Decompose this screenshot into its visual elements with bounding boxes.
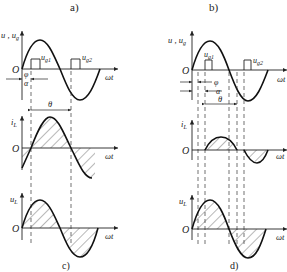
- panel-c-current-plot: θ iL O ωt: [11, 99, 118, 178]
- phi-label: φ: [24, 70, 29, 79]
- waveform-diagram: a) b) u , ug O ωt ug1 ug2 φ α θ: [0, 0, 287, 272]
- current-negative-area: [71, 148, 95, 178]
- panel-d-voltage-gate-plot: u , ug O ωt ug1 ug2 φ α θ: [168, 31, 287, 104]
- y-axis-label: iL: [181, 119, 187, 130]
- panel-c-voltage-gate-plot: u , ug O ωt ug1 ug2 φ α: [1, 30, 118, 100]
- y-axis-label: u , ug: [1, 30, 19, 41]
- theta-label: θ: [48, 99, 52, 109]
- y-axis-label: u , ug: [168, 35, 186, 46]
- panel-label-d: d): [230, 260, 238, 272]
- origin-label: O: [12, 64, 19, 75]
- origin-label: O: [12, 223, 19, 234]
- gate-pulse-1: [205, 60, 212, 70]
- y-axis-label: iL: [11, 117, 17, 128]
- panel-label-c: c): [62, 260, 70, 272]
- gate-pulse-2: [71, 59, 80, 69]
- x-axis-label: ωt: [105, 231, 114, 241]
- panel-label-b: b): [209, 1, 219, 14]
- x-axis-label: ωt: [277, 74, 286, 84]
- origin-label: O: [182, 224, 189, 235]
- origin-label: O: [12, 143, 19, 154]
- panel-d-load-voltage-plot: uL O ωt: [179, 195, 287, 258]
- gate-pulse-2-label: ug2: [253, 56, 263, 66]
- panel-d-current-plot: iL O ωt: [181, 119, 287, 163]
- panel-label-a: a): [70, 1, 79, 14]
- y-axis-label: uL: [179, 196, 187, 207]
- panel-c: u , ug O ωt ug1 ug2 φ α θ iL O ωt: [1, 30, 118, 272]
- x-axis-label: ωt: [105, 151, 114, 161]
- x-axis-label: ωt: [276, 151, 285, 161]
- origin-label: O: [182, 65, 189, 76]
- gate-pulse-1-label: ug1: [204, 50, 214, 60]
- theta-label: θ: [218, 94, 222, 104]
- panel-d: u , ug O ωt ug1 ug2 φ α θ: [168, 31, 287, 272]
- gate-pulse-1-label: ug1: [41, 53, 51, 63]
- origin-label: O: [182, 145, 189, 156]
- y-axis-label: uL: [10, 194, 18, 205]
- phi-label: φ: [214, 78, 219, 87]
- panel-c-load-voltage-plot: uL O ωt: [10, 193, 118, 257]
- x-axis-label: ωt: [105, 72, 114, 82]
- x-axis-label: ωt: [276, 232, 285, 242]
- supply-voltage-curve: [22, 40, 100, 100]
- gate-pulse-2-label: ug2: [82, 53, 92, 63]
- alpha-label: α: [24, 79, 29, 88]
- gate-pulse-2: [244, 60, 251, 70]
- gate-pulse-1: [31, 59, 40, 69]
